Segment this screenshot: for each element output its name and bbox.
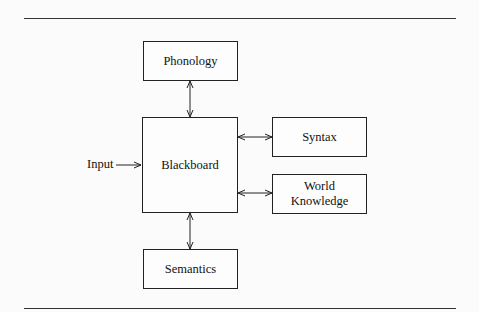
semantics-box: Semantics <box>143 249 238 289</box>
connector-arrows <box>0 0 479 312</box>
phonology-box: Phonology <box>143 41 238 81</box>
syntax-box: Syntax <box>272 117 367 157</box>
bottom-rule <box>24 308 456 309</box>
world-knowledge-label-line2: Knowledge <box>291 194 349 209</box>
semantics-label: Semantics <box>165 262 216 277</box>
syntax-label: Syntax <box>302 130 337 145</box>
blackboard-label: Blackboard <box>161 158 219 173</box>
blackboard-box: Blackboard <box>142 117 238 213</box>
world-knowledge-label-line1: World <box>304 179 335 194</box>
phonology-label: Phonology <box>163 54 217 69</box>
input-label: Input <box>87 157 113 172</box>
world-knowledge-box: World Knowledge <box>272 174 367 214</box>
